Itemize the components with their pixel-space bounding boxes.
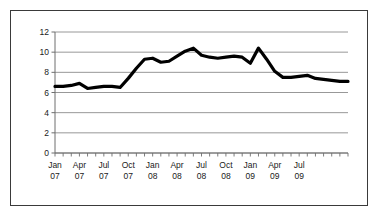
x-axis-tick-label: 08	[172, 171, 182, 181]
x-axis-tick-label: 09	[294, 171, 304, 181]
x-axis-tick-label: Apr	[73, 160, 86, 170]
chart-figure: 024681012 Jan07Apr07Jul07Oct07Jan08Apr08…	[0, 0, 382, 220]
x-axis-tick-label: Jan	[243, 160, 257, 170]
x-axis-tick-label: 08	[221, 171, 231, 181]
x-axis-tick-label: 07	[50, 171, 60, 181]
x-axis-tick-label: Jul	[294, 160, 305, 170]
x-axis-tick-label: Oct	[219, 160, 233, 170]
x-axis-tick-label: 08	[197, 171, 207, 181]
y-axis-tick-label: 10	[40, 47, 50, 57]
x-axis-tick-label: Oct	[122, 160, 136, 170]
y-axis-tick-label: 2	[44, 128, 49, 138]
y-axis-tick-label: 8	[44, 67, 49, 77]
x-axis-tick-labels: Jan07Apr07Jul07Oct07Jan08Apr08Jul08Oct08…	[48, 160, 305, 181]
gridlines	[55, 32, 348, 153]
x-axis-tick-label: Jan	[48, 160, 62, 170]
y-axis-tick-label: 6	[44, 88, 49, 98]
y-axis-tick-labels: 024681012	[40, 27, 50, 158]
x-axis-tick-label: 08	[148, 171, 158, 181]
y-axis-ticks	[52, 32, 56, 153]
y-axis-tick-label: 4	[44, 108, 49, 118]
x-axis-tick-label: Apr	[170, 160, 183, 170]
x-axis-tick-label: 07	[99, 171, 109, 181]
x-axis-tick-label: Jul	[196, 160, 207, 170]
y-axis-tick-label: 0	[44, 148, 49, 158]
line-chart: 024681012 Jan07Apr07Jul07Oct07Jan08Apr08…	[0, 0, 382, 220]
x-axis-tick-label: Jan	[146, 160, 160, 170]
x-axis-ticks	[55, 153, 348, 157]
x-axis-tick-label: 07	[75, 171, 85, 181]
x-axis-tick-label: 09	[246, 171, 256, 181]
y-axis-tick-label: 12	[40, 27, 50, 37]
x-axis-tick-label: Apr	[268, 160, 281, 170]
x-axis-tick-label: 09	[270, 171, 280, 181]
x-axis-tick-label: 07	[124, 171, 134, 181]
x-axis-tick-label: Jul	[98, 160, 109, 170]
data-series-1	[55, 48, 348, 88]
